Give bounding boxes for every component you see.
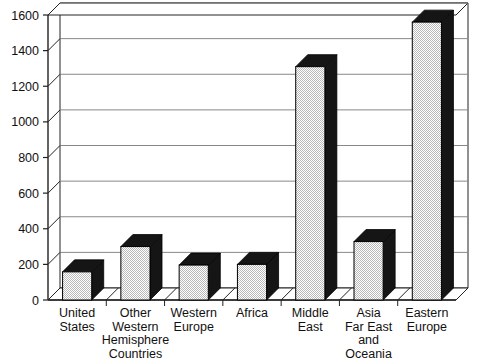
bar-6 [354,230,395,300]
x-category-label-7: Europe [407,320,447,334]
bar-side-face-5 [325,55,337,300]
bar-5 [296,55,337,300]
bar-front-face-3 [179,265,208,300]
bar-7 [412,10,453,300]
y-tick-label-200: 200 [18,258,39,272]
x-category-label-2: Hemisphere [102,333,169,347]
x-category-label-6: Oceania [345,347,392,361]
y-tick-label-600: 600 [18,187,39,201]
bar-2 [121,235,162,300]
x-category-label-6: and [358,333,379,347]
x-category-label-5: East [298,320,324,334]
y-tick-label-1400: 1400 [11,44,39,58]
grid-connector-400 [48,217,60,229]
bar-front-face-5 [296,67,325,300]
x-category-label-3: Western [171,306,217,320]
bar-chart-canvas: 02004006008001000120014001600UnitedState… [0,0,480,361]
x-category-label-2: Other [120,306,151,320]
bar-front-face-1 [63,272,92,300]
x-category-label-7: Eastern [405,306,448,320]
y-tick-label-1200: 1200 [11,80,39,94]
x-category-label-6: Far East [345,320,393,334]
grid-connector-1200 [48,74,60,86]
x-category-label-2: Countries [109,347,163,361]
y-tick-label-1000: 1000 [11,115,39,129]
grid-connector-600 [48,181,60,193]
bar-1 [63,260,104,300]
bar-front-face-4 [237,264,266,300]
y-tick-label-800: 800 [18,151,39,165]
chart-figure: 02004006008001000120014001600UnitedState… [0,0,480,361]
x-category-label-1: United [59,306,95,320]
bar-front-face-2 [121,247,150,300]
x-category-label-6: Asia [356,306,380,320]
plot-ceiling [48,3,468,15]
y-tick-label-0: 0 [32,294,39,308]
bar-front-face-6 [354,242,383,300]
x-category-label-4: Africa [236,306,268,320]
bar-side-face-7 [441,10,453,300]
grid-connector-800 [48,146,60,158]
x-category-label-1: States [59,320,94,334]
y-tick-label-400: 400 [18,222,39,236]
grid-connector-200 [48,252,60,264]
x-category-label-5: Middle [292,306,329,320]
y-tick-label-1600: 1600 [11,9,39,23]
bar-front-face-7 [412,22,441,300]
x-category-label-2: Western [112,320,158,334]
grid-connector-1400 [48,39,60,51]
bar-4 [237,252,278,300]
bar-3 [179,253,220,300]
x-category-label-3: Europe [174,320,214,334]
grid-connector-1000 [48,110,60,122]
